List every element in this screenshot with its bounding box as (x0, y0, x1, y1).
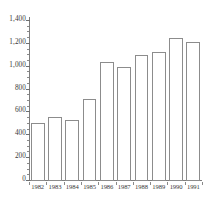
x-axis-tick-label: 1988 (133, 184, 150, 191)
y-axis-tick-label: 1,000 (9, 62, 26, 69)
y-axis-tick-label: 600 (15, 108, 26, 115)
bar (31, 123, 45, 181)
x-axis-tick-label: 1985 (81, 184, 98, 191)
y-axis-label-group: 02004006008001,0001,2001,400 (0, 0, 26, 201)
x-axis-tick-label: 1983 (46, 184, 63, 191)
bar (100, 62, 114, 181)
bar (169, 38, 183, 181)
x-axis-tick-label: 1989 (150, 184, 167, 191)
y-axis-tick-label: 1,400 (9, 16, 26, 23)
bar (186, 42, 200, 181)
bar (135, 55, 149, 181)
x-axis-tick-label: 1990 (167, 184, 184, 191)
x-axis-tick-mark (202, 182, 203, 185)
y-axis-tick-label: 400 (15, 131, 26, 138)
x-axis-tick-label: 1991 (185, 184, 202, 191)
bar (152, 52, 166, 181)
y-axis-tick-label: 200 (15, 154, 26, 161)
bar (117, 67, 131, 181)
x-axis-tick-label: 1982 (29, 184, 46, 191)
bar (65, 120, 79, 181)
x-axis-tick-label: 1987 (116, 184, 133, 191)
bar (83, 99, 97, 181)
bar-chart: 02004006008001,0001,2001,400 19821983198… (0, 0, 205, 201)
x-axis-tick-label: 1984 (64, 184, 81, 191)
bar-group (29, 20, 202, 181)
bar (48, 117, 62, 181)
x-axis-tick-label: 1986 (98, 184, 115, 191)
y-axis-tick-label: 1,200 (9, 39, 26, 46)
y-axis-tick-label: 800 (15, 85, 26, 92)
x-axis-label-group: 1982198319841985198619871988198919901991 (29, 182, 202, 196)
